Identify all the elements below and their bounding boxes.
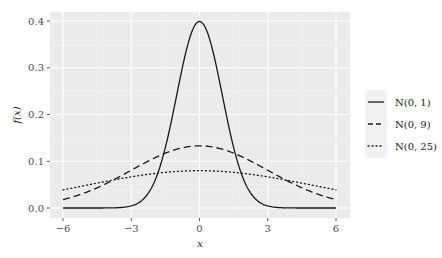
x-tick-label: 6 — [333, 223, 339, 234]
y-axis: 0.00.10.20.30.4 — [28, 16, 50, 214]
x-axis-title: x — [197, 238, 203, 249]
legend-label: N(0, 9) — [395, 119, 431, 130]
legend-label: N(0, 1) — [395, 97, 431, 108]
chart: 0.00.10.20.30.4 −6−3036 x f(x) N(0, 1)N(… — [0, 0, 442, 258]
y-tick-label: 0.1 — [28, 156, 44, 167]
y-tick-label: 0.3 — [28, 62, 44, 73]
x-tick-label: 3 — [265, 223, 271, 234]
legend: N(0, 1)N(0, 9)N(0, 25) — [365, 90, 437, 158]
x-tick-label: −6 — [56, 223, 71, 234]
x-tick-label: −3 — [124, 223, 139, 234]
legend-label: N(0, 25) — [395, 141, 437, 152]
x-tick-label: 0 — [196, 223, 202, 234]
x-axis: −6−3036 — [56, 218, 340, 234]
y-tick-label: 0.4 — [28, 16, 44, 27]
y-tick-label: 0.2 — [28, 109, 44, 120]
y-axis-title: f(x) — [11, 106, 22, 124]
y-tick-label: 0.0 — [28, 203, 44, 214]
